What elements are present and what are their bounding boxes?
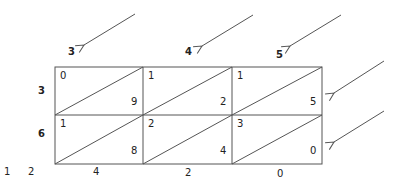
cell-ones: 0 [310, 146, 316, 156]
cell-ones: 5 [310, 97, 316, 107]
arrow-icon [334, 61, 384, 93]
result-digit: 0 [277, 169, 283, 179]
cell-tens: 1 [148, 71, 154, 81]
multiplicand-digit: 3 [68, 47, 75, 57]
cell-tens: 2 [148, 119, 154, 129]
cell-tens: 1 [60, 119, 66, 129]
cell-ones: 2 [220, 97, 226, 107]
arrow-icon [334, 111, 384, 142]
cell-tens: 1 [237, 71, 243, 81]
multiplicand-digit: 5 [276, 50, 283, 60]
result-digit: 2 [28, 167, 34, 177]
arrow-icon [84, 14, 135, 45]
cell-ones: 4 [220, 146, 226, 156]
arrow-icon [290, 15, 341, 46]
multiplier-digit: 6 [38, 129, 45, 139]
cell-tens: 0 [60, 71, 66, 81]
cell-ones: 8 [131, 146, 137, 156]
result-digit: 1 [4, 167, 10, 177]
arrow-icon [202, 15, 253, 46]
result-digit: 2 [185, 168, 191, 178]
result-digit: 4 [93, 167, 99, 177]
multiplier-digit: 3 [38, 86, 45, 96]
cell-ones: 9 [131, 97, 137, 107]
lattice-grid-svg [0, 0, 402, 182]
cell-tens: 3 [237, 119, 243, 129]
multiplicand-digit: 4 [185, 47, 192, 57]
